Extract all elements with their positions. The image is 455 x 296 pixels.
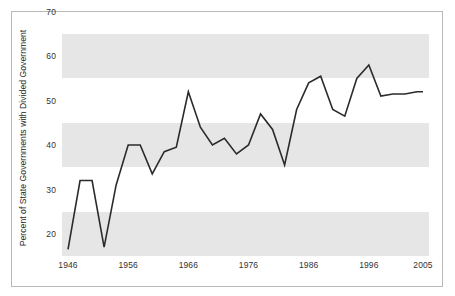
x-axis-tick: 1996: [359, 260, 378, 270]
y-axis-tick: 20: [46, 229, 56, 239]
x-axis-tick: 1986: [299, 260, 318, 270]
y-axis-tick: 40: [46, 140, 56, 150]
divided-government-line: [68, 65, 423, 249]
y-axis-tick: 70: [46, 7, 56, 17]
y-axis-title: Percent of State Governments with Divide…: [14, 12, 32, 264]
line-series-svg: [62, 34, 429, 256]
x-axis-tick-labels: 1946195619661976198619962005: [62, 260, 429, 276]
x-axis-tick: 2005: [413, 260, 432, 270]
x-axis-tick: 1966: [179, 260, 198, 270]
plot-area: [62, 34, 429, 256]
x-axis-tick: 1956: [119, 260, 138, 270]
y-axis-tick: 60: [46, 51, 56, 61]
y-axis-tick: 30: [46, 185, 56, 195]
x-axis-tick: 1976: [239, 260, 258, 270]
y-axis-tick-labels: 203040506070: [32, 34, 60, 256]
chart-frame: Percent of State Governments with Divide…: [11, 11, 443, 287]
y-axis-tick: 50: [46, 96, 56, 106]
x-axis-tick: 1946: [58, 260, 77, 270]
y-axis-title-text: Percent of State Governments with Divide…: [18, 30, 28, 247]
